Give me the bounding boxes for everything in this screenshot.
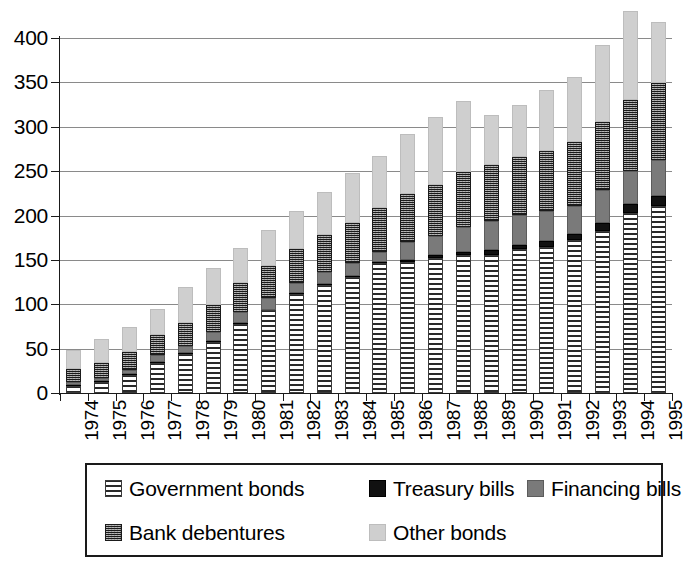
x-axis-tick-label: 1974	[82, 400, 101, 441]
y-axis-tick-label: 400	[0, 27, 48, 48]
bar-segment	[150, 335, 165, 355]
bar-segment	[484, 221, 499, 250]
legend-item[interactable]: Financing bills	[527, 465, 681, 512]
x-axis-tick-label: 1978	[193, 400, 212, 441]
x-axis-tick-mark	[199, 394, 200, 401]
bar-segment	[178, 354, 193, 393]
bar-segment	[539, 90, 554, 150]
x-axis-tick-label: 1982	[304, 400, 323, 441]
horizontal-lines-icon	[105, 480, 122, 497]
stacked-bar	[400, 38, 415, 393]
x-axis-tick-mark	[589, 394, 590, 401]
x-axis-tick-label: 1980	[249, 400, 268, 441]
bar-segment	[372, 252, 387, 262]
x-axis-tick-label: 1986	[416, 400, 435, 441]
legend-item[interactable]: Government bonds	[105, 465, 304, 512]
legend-item[interactable]: Treasury bills	[369, 465, 514, 512]
x-axis-tick-label: 1991	[555, 400, 574, 441]
y-axis-tick-label: 300	[0, 116, 48, 137]
y-axis-tick-label: 350	[0, 71, 48, 92]
x-axis-tick-label: 1983	[332, 400, 351, 441]
stacked-bar	[317, 38, 332, 393]
legend-row: Government bondsTreasury billsFinancing …	[87, 465, 661, 512]
x-axis-tick-mark	[672, 394, 673, 401]
x-axis-tick-label: 1985	[388, 400, 407, 441]
x-axis-tick-mark	[171, 394, 172, 401]
x-axis-tick-mark	[283, 394, 284, 401]
bar-segment	[651, 22, 666, 83]
x-axis-tick-label: 1994	[638, 400, 657, 441]
x-axis-tick-label: 1992	[583, 400, 602, 441]
bar-segment	[539, 247, 554, 393]
bar-segment	[512, 245, 527, 249]
chart-legend: Government bondsTreasury billsFinancing …	[85, 463, 663, 557]
bar-segment	[66, 350, 81, 369]
y-axis-tick-mark	[51, 260, 60, 261]
solid-gray-icon	[527, 480, 544, 497]
bar-segment	[651, 206, 666, 393]
legend-item[interactable]: Bank debentures	[105, 509, 285, 556]
bar-segment	[651, 160, 666, 196]
bar-segment	[456, 252, 471, 256]
x-axis-tick-label: 1990	[527, 400, 546, 441]
x-axis-tick-mark	[116, 394, 117, 401]
legend-label: Bank debentures	[129, 522, 285, 543]
bar-segment	[567, 206, 582, 234]
bar-segment	[317, 285, 332, 393]
bar-segment	[484, 115, 499, 165]
bar-segment	[372, 156, 387, 207]
bar-segment	[66, 382, 81, 385]
stacked-bar	[651, 38, 666, 393]
bar-segment	[512, 249, 527, 393]
x-axis-tick-label: 1981	[277, 400, 296, 441]
y-axis-tick-mark	[51, 127, 60, 128]
x-axis-tick-label: 1988	[471, 400, 490, 441]
bar-segment	[233, 283, 248, 312]
x-axis-tick-mark	[60, 394, 61, 401]
stacked-bar	[512, 38, 527, 393]
y-axis-tick-mark	[51, 38, 60, 39]
x-axis-tick-mark	[338, 394, 339, 401]
bar-segment	[206, 305, 221, 332]
bar-segment	[317, 272, 332, 284]
x-axis-tick-mark	[394, 394, 395, 401]
stacked-bar	[595, 38, 610, 393]
stacked-bar	[66, 38, 81, 393]
bar-segment	[623, 204, 638, 213]
x-axis-tick-label: 1987	[444, 400, 463, 441]
bar-segment	[539, 151, 554, 211]
stacked-bar	[484, 38, 499, 393]
x-axis-tick-mark	[449, 394, 450, 401]
bar-segment	[623, 11, 638, 100]
bar-segment	[428, 258, 443, 393]
bar-segment	[512, 157, 527, 215]
bar-segment	[178, 287, 193, 323]
y-axis-tick-mark	[51, 216, 60, 217]
x-axis-tick-label: 1993	[610, 400, 629, 441]
bar-segment	[512, 215, 527, 245]
bar-segment	[94, 378, 109, 382]
bar-segment	[456, 255, 471, 393]
bar-segment	[428, 117, 443, 185]
x-axis-tick-mark	[143, 394, 144, 401]
stacked-bar	[428, 38, 443, 393]
bar-segment	[345, 263, 360, 275]
bar-segment	[66, 386, 81, 393]
bar-segment	[261, 230, 276, 266]
bar-segment	[595, 223, 610, 231]
x-axis-tick-mark	[422, 394, 423, 401]
bar-segment	[651, 196, 666, 206]
x-axis-tick-mark	[227, 394, 228, 401]
bar-segment	[400, 260, 415, 262]
bar-segment	[428, 255, 443, 258]
bar-segment	[456, 227, 471, 252]
bar-segment	[317, 235, 332, 272]
y-axis-tick-label: 50	[0, 338, 48, 359]
x-axis-tick-label: 1979	[221, 400, 240, 441]
stacked-bar	[289, 38, 304, 393]
bar-segment	[94, 339, 109, 363]
bar-segment	[372, 263, 387, 393]
legend-item[interactable]: Other bonds	[369, 509, 506, 556]
x-axis-tick-label: 1989	[499, 400, 518, 441]
plot-area	[60, 38, 672, 393]
